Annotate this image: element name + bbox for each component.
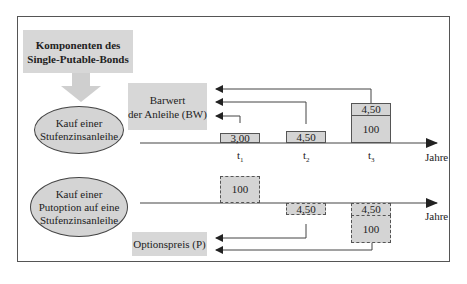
title-line1: Komponenten des <box>36 38 121 52</box>
option-cashflow-t1: 100 <box>220 176 260 203</box>
option-cashflow-t3-principal-value: 100 <box>363 224 380 235</box>
option-cashflow-t3-coupon-value: 4,50 <box>361 204 380 215</box>
option-cashflow-t2: 4,50 <box>286 203 326 215</box>
tick-t1: t1 <box>237 149 244 164</box>
barwert-box: Barwert der Anleihe (BW) <box>128 83 207 130</box>
component2-line2: Putoption auf eine <box>39 201 120 214</box>
option-cashflow-t2-value: 4,50 <box>296 204 315 215</box>
component-putoption: Kauf einer Putoption auf eine Stufenzins… <box>30 177 128 237</box>
tick-t3: t3 <box>368 149 375 164</box>
cashflow-t2-value: 4,50 <box>296 132 315 143</box>
component2-line3: Stufenzinsanleihe <box>40 214 118 227</box>
cashflow-t3-coupon-value: 4,50 <box>361 104 380 115</box>
cashflow-t1: 3,00 <box>220 133 260 143</box>
barwert-line2: der Anleihe (BW) <box>128 107 207 121</box>
cashflow-t3-principal-value: 100 <box>363 124 380 135</box>
component1-line2: Stufenzinsanleihe <box>40 130 118 143</box>
axis-label-jahre-2: Jahre <box>425 210 448 222</box>
optionspreis-label: Optionspreis (P) <box>133 237 205 251</box>
cashflow-t2: 4,50 <box>286 131 326 143</box>
axis-label-jahre-1: Jahre <box>425 151 448 163</box>
cashflow-t3-principal: 100 <box>351 115 391 143</box>
component-stufenzinsanleihe: Kauf einer Stufenzinsanleihe <box>34 106 124 154</box>
title-box: Komponenten des Single-Putable-Bonds <box>23 30 133 73</box>
option-cashflow-t1-value: 100 <box>232 184 249 195</box>
title-line2: Single-Putable-Bonds <box>27 52 128 66</box>
tick-t2: t2 <box>303 149 310 164</box>
component2-line1: Kauf einer <box>56 188 103 201</box>
cashflow-t1-value: 3,00 <box>230 133 249 144</box>
down-arrow-icon <box>61 73 101 102</box>
option-cashflow-t3-principal: 100 <box>351 215 391 243</box>
component1-line1: Kauf einer <box>56 117 103 130</box>
barwert-line1: Barwert <box>150 93 185 107</box>
optionspreis-box: Optionspreis (P) <box>132 232 207 256</box>
